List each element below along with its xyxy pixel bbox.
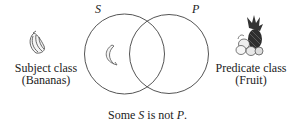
caption-post: . xyxy=(184,108,187,122)
predicate-circle xyxy=(130,15,209,94)
caption-mid: is not xyxy=(144,108,176,122)
banana-icon xyxy=(106,45,117,65)
subject-class-label: Subject class (Bananas) xyxy=(8,62,84,86)
caption-p: P xyxy=(177,108,184,122)
subject-circle-label: S xyxy=(95,3,101,15)
fruit-basket-icon xyxy=(236,15,263,56)
caption-pre: Some xyxy=(108,108,138,122)
subject-circle xyxy=(85,14,165,94)
predicate-circle-label: P xyxy=(192,3,199,15)
bananas-icon xyxy=(30,31,44,53)
predicate-class-label: Predicate class (Fruit) xyxy=(210,62,292,86)
diagram-caption: Some S is not P. xyxy=(60,109,235,121)
subject-class-example: (Bananas) xyxy=(8,74,84,86)
predicate-class-example: (Fruit) xyxy=(210,74,292,86)
